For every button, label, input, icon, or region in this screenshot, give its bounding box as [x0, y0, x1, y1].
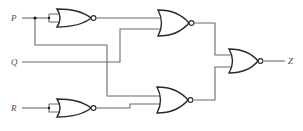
- nor-gate-g2: [158, 10, 194, 36]
- nor-gate-g5: [229, 49, 263, 73]
- output-label-z: Z: [288, 56, 294, 66]
- wire-g2-g5: [194, 23, 232, 55]
- wire-g3-g4: [96, 104, 160, 108]
- input-label-r: R: [10, 103, 17, 113]
- junction-node-p: [33, 16, 36, 19]
- input-label-p: P: [10, 13, 17, 23]
- wire-p: [22, 14, 160, 96]
- logic-circuit-diagram: P Q R Z: [0, 0, 303, 131]
- wire-g4-g5: [194, 67, 232, 100]
- junction-node-g1: [48, 17, 50, 19]
- junction-node-r: [48, 107, 50, 109]
- wire-r: [22, 104, 60, 112]
- input-label-q: Q: [11, 57, 18, 67]
- nor-gate-g1: [57, 9, 96, 27]
- nor-gate-g4: [157, 87, 193, 113]
- nor-gate-g3: [57, 99, 96, 117]
